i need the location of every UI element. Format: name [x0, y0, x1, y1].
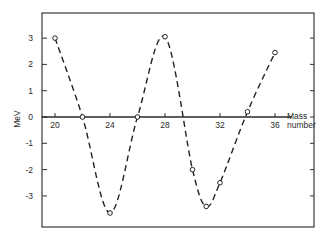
y-tick-label: -1: [25, 138, 33, 148]
data-point: [190, 167, 195, 172]
y-axis-label: MeV: [12, 110, 22, 128]
x-tick-label: 24: [105, 120, 115, 130]
x-tick-label: 36: [270, 120, 280, 130]
x-tick-label: 28: [160, 120, 170, 130]
data-point: [135, 115, 140, 120]
chart: 3210-1-2-3 2024283236 MeV Mass number: [0, 0, 327, 240]
data-point: [108, 211, 113, 216]
data-point: [273, 50, 278, 55]
y-tick-label: -3: [25, 191, 33, 201]
data-point: [204, 204, 209, 209]
y-tick-label: 2: [28, 59, 33, 69]
data-point: [245, 109, 250, 114]
y-tick-label: 3: [28, 33, 33, 43]
y-tick-label: 0: [28, 112, 33, 122]
x-axis-label-line2: number: [287, 120, 316, 130]
x-tick-label: 32: [215, 120, 225, 130]
y-tick-label: 1: [28, 86, 33, 96]
data-point: [53, 36, 58, 41]
y-tick-label: -2: [25, 165, 33, 175]
data-point: [80, 115, 85, 120]
data-point: [218, 180, 223, 185]
data-point: [163, 34, 168, 39]
x-tick-label: 20: [50, 120, 60, 130]
